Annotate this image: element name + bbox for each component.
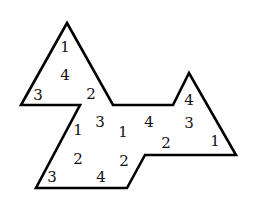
region-number-label: 3	[184, 114, 194, 132]
region-number-label: 3	[95, 113, 105, 131]
region-number-label: 4	[184, 91, 194, 109]
region-number-label: 3	[47, 168, 57, 186]
region-number-label: 1	[210, 132, 220, 150]
shape-diagram: 1432131443212234	[0, 0, 254, 199]
region-number-label: 2	[86, 85, 96, 103]
region-number-label: 3	[33, 86, 43, 104]
region-number-label: 4	[96, 168, 106, 186]
region-number-label: 4	[144, 113, 154, 131]
region-number-label: 1	[60, 38, 70, 56]
region-number-label: 2	[161, 134, 171, 152]
region-number-label: 4	[60, 66, 70, 84]
region-number-label: 1	[118, 123, 128, 141]
region-labels: 1432131443212234	[33, 38, 220, 186]
region-number-label: 1	[73, 121, 83, 139]
region-number-label: 2	[73, 150, 83, 168]
region-number-label: 2	[119, 152, 129, 170]
